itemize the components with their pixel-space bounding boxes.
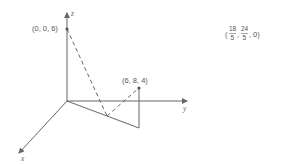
svg-text:5: 5 xyxy=(243,34,247,41)
point-target-label: (6, 8, 4) xyxy=(122,76,148,85)
svg-text:(: ( xyxy=(225,30,228,39)
base-edge-origin-to-foot xyxy=(67,101,139,128)
svg-text:5: 5 xyxy=(231,34,235,41)
y-axis-label: y xyxy=(182,104,187,113)
point-top xyxy=(65,27,68,30)
point-target xyxy=(137,86,140,89)
svg-text:18: 18 xyxy=(229,25,237,32)
z-axis-label: z xyxy=(70,9,74,18)
svg-text:24: 24 xyxy=(241,25,249,32)
projection-point-label: ( 18 5 , 24 5 , 0) xyxy=(225,25,260,41)
point-top-label: (0, 0, 6) xyxy=(32,24,58,33)
x-axis xyxy=(19,101,67,153)
x-axis-label: x xyxy=(20,154,25,163)
dashed-line-projection-to-target xyxy=(107,88,139,116)
3d-coordinate-diagram: z y x (0, 0, 6) (6, 8, 4) ( 18 5 , 24 5 … xyxy=(0,0,288,164)
svg-text:,: , xyxy=(249,30,251,39)
svg-text:,: , xyxy=(237,30,239,39)
svg-text:0): 0) xyxy=(253,30,260,39)
